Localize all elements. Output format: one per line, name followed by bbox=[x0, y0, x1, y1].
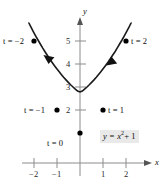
equation-rhs: + 1 bbox=[124, 131, 135, 141]
x-tick-label-2: 2 bbox=[124, 170, 128, 179]
y-tick-label-4: 4 bbox=[66, 60, 70, 69]
x-tick-label-minus-2: −2 bbox=[29, 170, 38, 179]
point-t-minus-1 bbox=[54, 107, 59, 112]
annotation-t-zero: t = 0 bbox=[47, 139, 63, 148]
equation-lhs: y = x bbox=[103, 131, 121, 141]
annotation-t-minus-2: t = −2 bbox=[3, 37, 24, 46]
point-t-two bbox=[123, 38, 128, 43]
x-axis bbox=[22, 160, 152, 166]
y-tick-label-2: 2 bbox=[66, 106, 70, 115]
x-axis-label: x bbox=[155, 158, 159, 167]
curve-equation-label: y = x2+ 1 bbox=[100, 130, 139, 143]
point-t-zero bbox=[77, 130, 82, 135]
plot-canvas bbox=[0, 0, 165, 186]
annotation-t-two: t = 2 bbox=[131, 37, 147, 46]
x-tick-label-minus-1: −1 bbox=[52, 170, 61, 179]
point-t-minus-2 bbox=[31, 38, 36, 43]
parametric-parabola-figure: x y −2 −1 1 2 2 3 4 5 t = −2 t = −1 t = … bbox=[0, 0, 165, 186]
y-tick-label-3: 3 bbox=[66, 83, 70, 92]
annotation-t-minus-1: t = −1 bbox=[24, 106, 45, 115]
point-t-one bbox=[100, 107, 105, 112]
x-tick-label-1: 1 bbox=[101, 170, 105, 179]
y-tick-label-5: 5 bbox=[66, 37, 70, 46]
annotation-t-one: t = 1 bbox=[108, 106, 124, 115]
y-axis-label: y bbox=[83, 7, 87, 16]
